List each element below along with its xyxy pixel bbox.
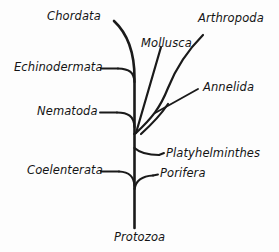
branch-echinodermata: [118, 69, 135, 83]
branch-porifera: [135, 176, 154, 190]
branch-nematoda: [117, 113, 135, 128]
branch-platyhelminthes: [135, 148, 160, 155]
leader-porifera: [153, 175, 158, 176]
taxon-label-protozoa: Protozoa: [114, 232, 165, 244]
taxon-label-echinodermata: Echinodermata: [14, 62, 103, 74]
taxon-label-platyhelminthes: Platyhelminthes: [166, 148, 260, 160]
tree-branches: [0, 0, 279, 252]
phylogenetic-tree-diagram: Chordata Mollusca Arthropoda Echinoderma…: [0, 0, 279, 252]
taxon-label-nematoda: Nematoda: [37, 106, 98, 118]
taxon-label-arthropoda: Arthropoda: [198, 13, 264, 25]
taxon-label-porifera: Porifera: [160, 168, 206, 180]
taxon-label-coelenterata: Coelenterata: [27, 165, 103, 177]
leader-platyhelminthes: [159, 153, 164, 155]
branch-coelenterata: [119, 172, 135, 187]
taxon-label-chordata: Chordata: [47, 11, 101, 23]
taxon-label-annelida: Annelida: [203, 82, 254, 94]
taxon-label-mollusca: Mollusca: [141, 38, 192, 50]
